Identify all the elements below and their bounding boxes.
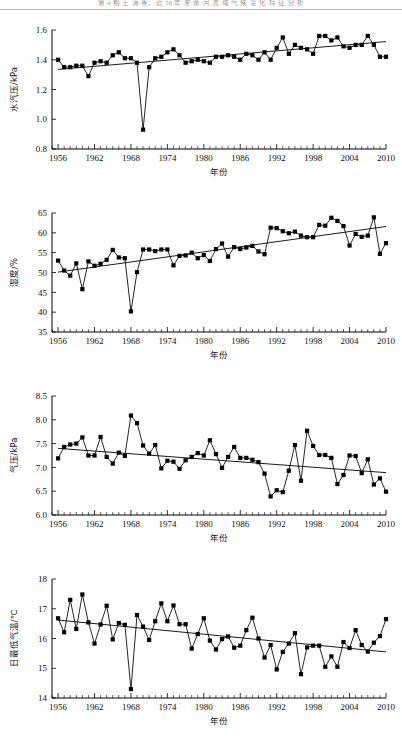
- data-point-marker: [317, 223, 321, 227]
- data-point-marker: [141, 443, 145, 447]
- data-point-marker: [105, 61, 109, 65]
- data-point-marker: [190, 59, 194, 63]
- data-point-marker: [311, 644, 315, 648]
- x-tick-label: 1992: [268, 153, 286, 163]
- x-tick-label: 2004: [341, 336, 360, 346]
- data-point-marker: [232, 445, 236, 449]
- data-point-marker: [329, 38, 333, 42]
- data-point-marker: [384, 55, 388, 59]
- data-point-marker: [250, 616, 254, 620]
- data-point-marker: [202, 616, 206, 620]
- y-tick-label: 14: [38, 693, 48, 703]
- data-point-marker: [86, 74, 90, 78]
- data-point-marker: [360, 471, 364, 475]
- data-point-marker: [123, 56, 127, 60]
- data-point-marker: [226, 53, 230, 57]
- x-tick-label: 1974: [158, 336, 177, 346]
- chart-stack: 0.81.01.21.41.61956196219681974198019861…: [0, 13, 402, 744]
- data-point-marker: [238, 644, 242, 648]
- data-point-marker: [202, 253, 206, 257]
- running-head: 第 4 期 王 涛 等：近 50 年 来 黄 河 流 域 气 候 变 化 特 征…: [0, 0, 402, 6]
- x-tick-label: 1986: [231, 153, 250, 163]
- data-point-marker: [202, 453, 206, 457]
- y-tick-label: 55: [38, 248, 48, 258]
- data-point-marker: [98, 622, 102, 626]
- data-point-marker: [153, 443, 157, 447]
- data-point-marker: [123, 256, 127, 260]
- data-point-marker: [293, 230, 297, 234]
- data-point-marker: [269, 226, 273, 230]
- data-point-marker: [208, 638, 212, 642]
- data-point-marker: [305, 429, 309, 433]
- data-point-marker: [159, 55, 163, 59]
- data-point-marker: [262, 471, 266, 475]
- data-point-marker: [184, 622, 188, 626]
- data-point-marker: [190, 455, 194, 459]
- data-point-marker: [256, 460, 260, 464]
- data-point-marker: [360, 43, 364, 47]
- data-point-marker: [354, 43, 358, 47]
- data-point-marker: [159, 601, 163, 605]
- x-tick-label: 1956: [49, 702, 68, 712]
- y-axis-title: 气压/kPa: [9, 438, 19, 474]
- data-point-marker: [281, 490, 285, 494]
- data-point-marker: [372, 482, 376, 486]
- data-point-marker: [129, 687, 133, 691]
- data-point-marker: [147, 451, 151, 455]
- data-point-marker: [293, 443, 297, 447]
- data-point-marker: [226, 455, 230, 459]
- data-point-marker: [323, 665, 327, 669]
- data-point-marker: [56, 259, 60, 263]
- x-tick-label: 1980: [195, 153, 214, 163]
- data-point-marker: [98, 435, 102, 439]
- data-point-marker: [196, 256, 200, 260]
- data-point-marker: [80, 592, 84, 596]
- data-point-marker: [366, 34, 370, 38]
- data-point-marker: [117, 50, 121, 54]
- data-point-marker: [220, 241, 224, 245]
- data-point-marker: [171, 47, 175, 51]
- data-point-marker: [341, 473, 345, 477]
- y-tick-label: 35: [38, 327, 48, 337]
- data-point-marker: [184, 61, 188, 65]
- data-point-marker: [214, 647, 218, 651]
- y-tick-label: 17: [38, 604, 48, 614]
- data-point-marker: [196, 58, 200, 62]
- data-point-marker: [165, 247, 169, 251]
- data-point-marker: [281, 650, 285, 654]
- data-point-marker: [269, 58, 273, 62]
- data-point-marker: [92, 264, 96, 268]
- data-point-marker: [250, 244, 254, 248]
- data-point-marker: [256, 636, 260, 640]
- data-point-marker: [232, 245, 236, 249]
- x-tick-label: 1998: [304, 702, 323, 712]
- x-tick-label: 1962: [86, 336, 104, 346]
- data-point-marker: [214, 55, 218, 59]
- data-point-marker: [117, 621, 121, 625]
- data-point-marker: [384, 617, 388, 621]
- x-tick-label: 2010: [377, 153, 396, 163]
- x-tick-label: 1968: [122, 702, 141, 712]
- data-point-marker: [250, 458, 254, 462]
- x-tick-label: 1956: [49, 519, 68, 529]
- x-tick-label: 1998: [304, 336, 323, 346]
- y-tick-label: 50: [38, 268, 48, 278]
- data-point-marker: [323, 224, 327, 228]
- data-point-marker: [117, 255, 121, 259]
- data-point-marker: [287, 52, 291, 56]
- data-point-marker: [305, 235, 309, 239]
- y-tick-label: 8.5: [36, 391, 48, 401]
- data-point-marker: [129, 56, 133, 60]
- x-tick-label: 1992: [268, 519, 286, 529]
- data-point-marker: [80, 64, 84, 68]
- data-point-marker: [111, 248, 115, 252]
- x-tick-label: 1986: [231, 519, 250, 529]
- x-tick-label: 1968: [122, 153, 141, 163]
- x-tick-label: 2004: [341, 519, 360, 529]
- data-point-marker: [214, 247, 218, 251]
- data-point-marker: [269, 494, 273, 498]
- data-point-marker: [341, 44, 345, 48]
- data-point-marker: [68, 442, 72, 446]
- data-point-marker: [299, 46, 303, 50]
- data-point-marker: [244, 456, 248, 460]
